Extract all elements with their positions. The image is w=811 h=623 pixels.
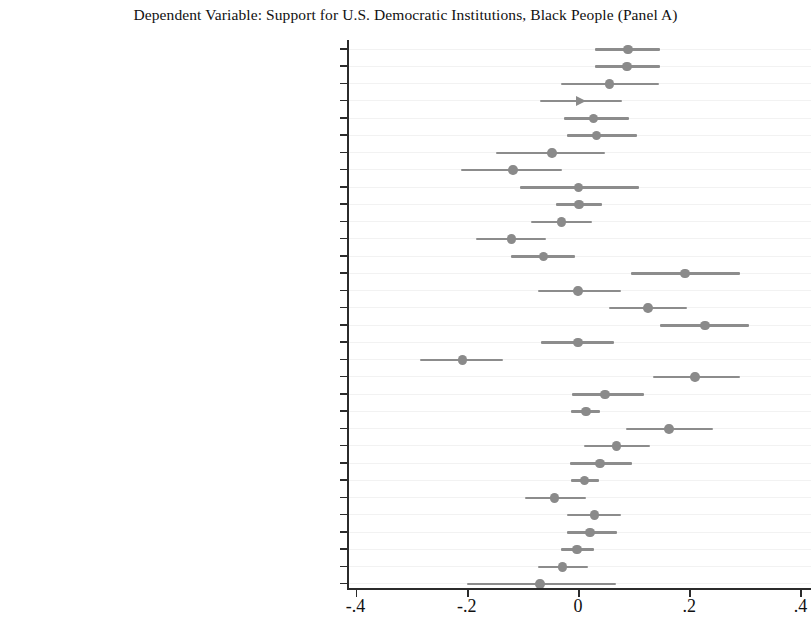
y-axis-tick [340, 393, 347, 395]
point-estimate-marker [600, 390, 610, 400]
gridline [347, 273, 811, 274]
y-axis-tick [340, 583, 347, 585]
estimate-row: Evaluation of Trump actions [347, 93, 811, 110]
point-estimate-marker [458, 355, 468, 365]
y-axis-tick [340, 255, 347, 257]
estimate-row: Belief that Democrats threaten democracy [347, 231, 811, 248]
y-axis-tick [340, 479, 347, 481]
gridline [347, 238, 811, 239]
estimate-row: Awareness of Barrett confirmation [347, 41, 811, 58]
point-estimate-marker [576, 96, 586, 106]
point-estimate-marker [508, 165, 518, 175]
y-axis-tick [340, 152, 347, 154]
point-estimate-marker [539, 252, 549, 262]
point-estimate-marker [622, 62, 632, 72]
point-estimate-marker [580, 476, 590, 486]
point-estimate-marker [573, 338, 583, 348]
y-axis-tick [340, 462, 347, 464]
y-axis-tick [340, 238, 347, 240]
estimate-row: Belief that Republicans threaten democra… [347, 248, 811, 265]
estimate-row: Level of education [347, 438, 811, 455]
y-axis-tick [340, 83, 347, 85]
y-axis-tick [340, 290, 347, 292]
estimate-row: Authoritarianism [347, 334, 811, 351]
estimate-row: Age [347, 421, 811, 438]
estimate-row: Trump impeachment not harmful [347, 196, 811, 213]
y-axis-tick [340, 169, 347, 171]
estimate-row: Born-again [347, 541, 811, 558]
y-axis-tick [340, 497, 347, 499]
point-estimate-marker [574, 183, 584, 193]
point-estimate-marker [690, 372, 700, 382]
gridline [347, 66, 811, 67]
point-estimate-marker [612, 441, 622, 451]
y-axis-tick [340, 428, 347, 430]
estimate-row: Ideological identification [347, 369, 811, 386]
estimate-row: Homeownership [347, 472, 811, 489]
gridline [347, 49, 811, 50]
estimate-row: Election unfairness judgments [347, 127, 811, 144]
point-estimate-marker [595, 459, 605, 469]
point-estimate-marker [557, 217, 567, 227]
gridline [347, 376, 811, 377]
point-estimate-marker [573, 286, 583, 296]
y-axis-tick [340, 272, 347, 274]
x-axis-tick-label: .4 [794, 596, 808, 617]
estimate-row: Approval of no conviction for Trump [347, 214, 811, 231]
estimate-row: Political knowledge [347, 386, 811, 403]
y-axis-line [347, 40, 349, 589]
estimate-row: Awareness of Trump impeachment [347, 179, 811, 196]
estimate-row: Metropolitan residence [347, 490, 811, 507]
estimate-row: Resident of the South [347, 507, 811, 524]
y-axis-tick [340, 445, 347, 447]
point-estimate-marker [592, 131, 602, 141]
y-axis-tick [340, 324, 347, 326]
estimate-row: Support for the rule of law [347, 265, 811, 282]
point-estimate-marker [550, 493, 560, 503]
gridline [347, 428, 811, 429]
y-axis-tick [340, 48, 347, 50]
estimate-row: Gender [347, 403, 811, 420]
y-axis-tick [340, 531, 347, 533]
y-axis-tick [340, 186, 347, 188]
gridline [347, 169, 811, 170]
y-axis-tick [340, 221, 347, 223]
estimate-row: Church attendance [347, 559, 811, 576]
estimate-row: Awareness of Capitol insurrection [347, 145, 811, 162]
point-estimate-marker [623, 45, 633, 55]
y-axis-tick [340, 203, 347, 205]
gridline [347, 359, 811, 360]
y-axis-tick [340, 548, 347, 550]
y-axis-tick [340, 410, 347, 412]
estimate-row: Awareness of election controversy [347, 110, 811, 127]
forest-plot-figure: Dependent Variable: Support for U.S. Dem… [0, 0, 811, 623]
confidence-interval-bar [567, 134, 637, 136]
point-estimate-marker [585, 528, 595, 538]
y-axis-tick [340, 134, 347, 136]
estimate-row: Awareness of Trump actions [347, 76, 811, 93]
estimate-row: Valuation of individual liberty [347, 283, 811, 300]
estimate-row: Evaluation of Barrett confirmation [347, 58, 811, 75]
point-estimate-marker [680, 269, 690, 279]
y-axis-tick [340, 359, 347, 361]
y-axis-tick [340, 100, 347, 102]
point-estimate-marker [558, 562, 568, 572]
y-axis-tick [340, 566, 347, 568]
x-axis-tick-label: .2 [682, 596, 696, 617]
gridline [347, 307, 811, 308]
point-estimate-marker [643, 303, 653, 313]
y-axis-tick [340, 65, 347, 67]
point-estimate-marker [589, 114, 599, 124]
point-estimate-marker [547, 148, 557, 158]
point-estimate-marker [700, 321, 710, 331]
gridline [347, 445, 811, 446]
point-estimate-marker [574, 200, 584, 210]
point-estimate-marker [581, 407, 591, 417]
x-axis-tick-label: 0 [574, 596, 583, 617]
y-axis-tick [340, 117, 347, 119]
estimate-row: Party identification [347, 352, 811, 369]
y-axis-tick [340, 307, 347, 309]
x-axis-tick-label: -.4 [346, 596, 366, 617]
estimate-row: Capitol insurrection not harmful [347, 162, 811, 179]
y-axis-tick [340, 376, 347, 378]
